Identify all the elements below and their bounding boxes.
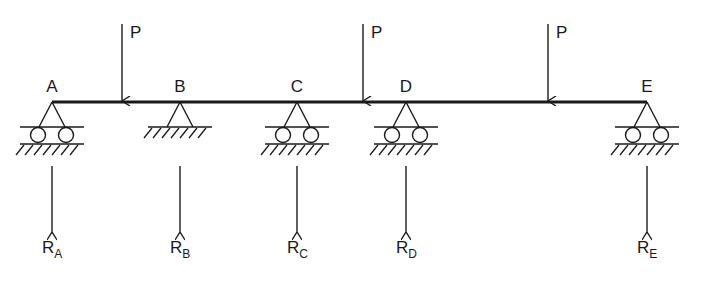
ground-hatch bbox=[144, 128, 206, 138]
support-triangle bbox=[284, 102, 310, 127]
roller-circle bbox=[304, 128, 319, 143]
support-A: A bbox=[16, 77, 84, 155]
load-label: P bbox=[130, 23, 141, 42]
reaction-B: RB bbox=[170, 166, 190, 261]
support-B: B bbox=[144, 77, 212, 138]
reaction-E: RE bbox=[637, 166, 657, 261]
load-arrow-3: P bbox=[548, 23, 567, 101]
roller-circle bbox=[413, 128, 428, 143]
support-triangle bbox=[167, 102, 193, 127]
roller-circle bbox=[654, 128, 669, 143]
reaction-D: RD bbox=[396, 166, 417, 261]
reaction-C: RC bbox=[287, 166, 308, 261]
load-label: P bbox=[371, 23, 382, 42]
reaction-label: RE bbox=[637, 238, 657, 261]
roller-circle bbox=[31, 128, 46, 143]
support-label: D bbox=[400, 77, 412, 96]
beam-diagram: ABCDE PPP RARBRCRDRE bbox=[0, 0, 704, 284]
reaction-label: RA bbox=[42, 238, 62, 261]
support-E: E bbox=[611, 77, 679, 155]
support-label: C bbox=[291, 77, 303, 96]
load-arrow-1: P bbox=[122, 23, 141, 101]
ground-hatch bbox=[611, 145, 673, 155]
reactions-group: RARBRCRDRE bbox=[42, 166, 657, 261]
support-label: E bbox=[641, 77, 652, 96]
reaction-label: RB bbox=[170, 238, 190, 261]
roller-circle bbox=[626, 128, 641, 143]
load-label: P bbox=[556, 23, 567, 42]
reaction-A: RA bbox=[42, 166, 62, 261]
ground-hatch bbox=[261, 145, 323, 155]
supports-group: ABCDE bbox=[16, 77, 679, 155]
load-arrow-2: P bbox=[363, 23, 382, 101]
loads-group: PPP bbox=[122, 23, 567, 101]
support-triangle bbox=[393, 102, 419, 127]
support-C: C bbox=[261, 77, 329, 155]
ground-hatch bbox=[370, 145, 432, 155]
support-triangle bbox=[634, 102, 660, 127]
reaction-label: RD bbox=[396, 238, 417, 261]
reaction-label: RC bbox=[287, 238, 308, 261]
roller-circle bbox=[385, 128, 400, 143]
ground-hatch bbox=[16, 145, 78, 155]
support-triangle bbox=[39, 102, 65, 127]
support-label: B bbox=[174, 77, 185, 96]
support-label: A bbox=[46, 77, 58, 96]
roller-circle bbox=[59, 128, 74, 143]
support-D: D bbox=[370, 77, 438, 155]
roller-circle bbox=[276, 128, 291, 143]
